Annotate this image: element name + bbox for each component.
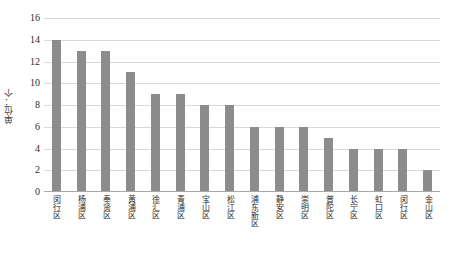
y-axis-tick-label: 0	[16, 187, 40, 197]
bar-slot	[217, 18, 242, 192]
x-axis-label-slot: 奉贤区	[94, 194, 119, 258]
y-axis-tick-label: 6	[16, 122, 40, 132]
x-axis-tick-label: 黄浦区	[125, 195, 136, 219]
bar[interactable]	[77, 51, 86, 192]
bar[interactable]	[126, 72, 135, 192]
y-axis-tick-label: 14	[16, 35, 40, 45]
x-axis-label-slot: 崇明区	[292, 194, 317, 258]
bar-slot	[69, 18, 94, 192]
x-axis-label-slot: 虹口区	[366, 194, 391, 258]
x-axis-label-slot: 宝山区	[193, 194, 218, 258]
x-axis-tick-label: 崇明区	[298, 195, 309, 219]
x-axis-label-slot: 长宁区	[341, 194, 366, 258]
bar-slot	[341, 18, 366, 192]
bar[interactable]	[200, 105, 209, 192]
x-axis-tick-label: 闵行区	[397, 195, 408, 219]
x-axis-tick-label: 奉贤区	[100, 195, 111, 219]
bar[interactable]	[398, 149, 407, 193]
x-axis-tick-label: 虹口区	[373, 195, 384, 219]
bar[interactable]	[324, 138, 333, 192]
bar[interactable]	[151, 94, 160, 192]
bar[interactable]	[275, 127, 284, 192]
x-axis-label-slot: 浦东新区	[242, 194, 267, 258]
bar[interactable]	[349, 149, 358, 193]
x-axis-tick-label: 青浦区	[175, 195, 186, 219]
bar[interactable]	[374, 149, 383, 193]
bar-slot	[415, 18, 440, 192]
x-axis-tick-label: 徐汇区	[150, 195, 161, 219]
x-axis-label-slot: 青浦区	[168, 194, 193, 258]
bar-chart: 单位：个 1614121086420 闵行区杨浦区奉贤区黄浦区徐汇区青浦区宝山区…	[0, 0, 458, 260]
bar-slot	[316, 18, 341, 192]
bar-slot	[366, 18, 391, 192]
bar-slot	[44, 18, 69, 192]
y-axis-tick-label: 16	[16, 13, 40, 23]
x-axis-tick-labels: 闵行区杨浦区奉贤区黄浦区徐汇区青浦区宝山区松江区浦东新区静安区崇明区普陀区长宁区…	[44, 194, 440, 258]
x-axis-label-slot: 静安区	[267, 194, 292, 258]
x-axis-tick-label: 松江区	[224, 195, 235, 219]
bar-slot	[168, 18, 193, 192]
x-axis-label-slot: 闵行区	[44, 194, 69, 258]
x-axis-tick-label: 长宁区	[348, 195, 359, 219]
x-axis-tick-label: 宝山区	[199, 195, 210, 219]
x-axis-label-slot: 杨浦区	[69, 194, 94, 258]
x-axis-label-slot: 黄浦区	[118, 194, 143, 258]
bar-series	[44, 18, 440, 192]
x-axis-tick-label: 静安区	[274, 195, 285, 219]
x-axis-tick-label: 普陀区	[323, 195, 334, 219]
bar-slot	[193, 18, 218, 192]
bar[interactable]	[52, 40, 61, 192]
bar[interactable]	[225, 105, 234, 192]
y-axis-tick-label: 2	[16, 165, 40, 175]
x-axis-label-slot: 普陀区	[316, 194, 341, 258]
x-axis-tick-label: 浦东新区	[249, 195, 260, 227]
bar-slot	[267, 18, 292, 192]
bar-slot	[242, 18, 267, 192]
x-axis-tick-label: 金山区	[422, 195, 433, 219]
y-axis-tick-label: 12	[16, 57, 40, 67]
x-axis-label-slot: 松江区	[217, 194, 242, 258]
bar-slot	[118, 18, 143, 192]
x-axis-tick-label: 闵行区	[51, 195, 62, 219]
bar[interactable]	[423, 170, 432, 192]
y-axis-tick-label: 8	[16, 100, 40, 110]
bar-slot	[94, 18, 119, 192]
y-axis-tick-labels: 1614121086420	[14, 0, 40, 260]
bar[interactable]	[299, 127, 308, 192]
x-axis-label-slot: 金山区	[415, 194, 440, 258]
y-axis-tick-label: 4	[16, 144, 40, 154]
bar[interactable]	[101, 51, 110, 192]
plot-area	[44, 18, 440, 192]
bar[interactable]	[176, 94, 185, 192]
bar-slot	[143, 18, 168, 192]
x-axis-line	[44, 191, 440, 192]
y-axis-tick-label: 10	[16, 78, 40, 88]
bar-slot	[391, 18, 416, 192]
bar[interactable]	[250, 127, 259, 192]
x-axis-label-slot: 闵行区	[391, 194, 416, 258]
x-axis-label-slot: 徐汇区	[143, 194, 168, 258]
x-axis-tick-label: 杨浦区	[76, 195, 87, 219]
bar-slot	[292, 18, 317, 192]
